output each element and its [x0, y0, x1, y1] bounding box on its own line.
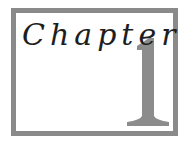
chapter-title: Chapter [22, 20, 181, 50]
